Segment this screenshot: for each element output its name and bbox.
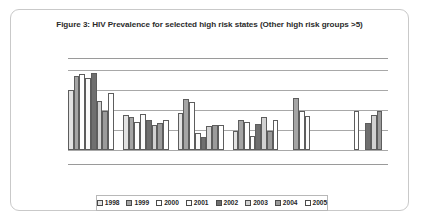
legend-label: 2003 <box>253 200 268 207</box>
legend-label: 2001 <box>194 200 209 207</box>
white-swatch <box>305 200 311 206</box>
mid-grey-hatch-swatch <box>126 200 132 206</box>
pale-grey-swatch <box>245 200 251 206</box>
bar-group <box>342 50 388 150</box>
legend-item-2002[interactable]: 2002 <box>216 200 239 207</box>
bar-series-layer <box>68 50 388 165</box>
legend-label: 2000 <box>164 200 179 207</box>
legend-item-1999[interactable]: 1999 <box>126 200 149 207</box>
legend-label: 2005 <box>313 200 328 207</box>
legend-item-2000[interactable]: 2000 <box>156 200 179 207</box>
chart-legend: 19981999200020012002200320042005 <box>96 195 328 211</box>
figure-title: Figure 3: HIV Prevalence for selected hi… <box>11 20 408 29</box>
legend-label: 1998 <box>105 200 120 207</box>
white-swatch <box>156 200 162 206</box>
bar[interactable] <box>354 111 360 150</box>
light-grey-swatch <box>97 200 103 206</box>
legend-item-1998[interactable]: 1998 <box>97 200 120 207</box>
legend-label: 1999 <box>134 200 149 207</box>
bar-group <box>287 50 333 150</box>
dark-grey-swatch <box>216 200 222 206</box>
bar-group <box>233 50 279 150</box>
legend-item-2004[interactable]: 2004 <box>275 200 298 207</box>
bar[interactable] <box>273 120 279 150</box>
bar[interactable] <box>218 125 224 150</box>
legend-label: 2002 <box>224 200 239 207</box>
legend-label: 2004 <box>283 200 298 207</box>
bar[interactable] <box>163 120 169 150</box>
figure-card: Figure 3: HIV Prevalence for selected hi… <box>10 9 409 211</box>
bar-group <box>68 50 114 150</box>
bar[interactable] <box>108 93 114 150</box>
legend-item-2003[interactable]: 2003 <box>245 200 268 207</box>
mid-grey-swatch <box>275 200 281 206</box>
legend-item-2005[interactable]: 2005 <box>305 200 328 207</box>
legend-item-2001[interactable]: 2001 <box>186 200 209 207</box>
bar-group <box>178 50 224 150</box>
bar[interactable] <box>377 111 383 150</box>
white-swatch <box>186 200 192 206</box>
chart-plot-area <box>68 50 388 165</box>
bar-group <box>123 50 169 150</box>
bar[interactable] <box>305 116 311 150</box>
